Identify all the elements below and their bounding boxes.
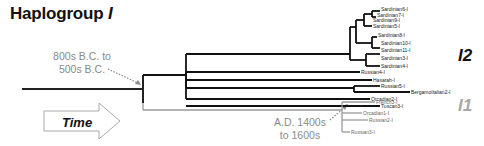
leaf-label: French3-I bbox=[376, 99, 397, 105]
leaf-label: Russian5-I bbox=[381, 83, 405, 89]
leaf-label: BergamoItalian2-I bbox=[411, 89, 450, 95]
leaf-label: Sardinian5-I bbox=[373, 23, 400, 29]
leaf-label: Sardinian10-I bbox=[381, 40, 411, 46]
leaf-label: Russian4-I bbox=[361, 69, 385, 75]
leaf-label: Russian3-I bbox=[351, 129, 375, 135]
tree-root bbox=[22, 75, 143, 103]
i2-branches bbox=[143, 11, 410, 106]
leaf-label: Sardinian8-I bbox=[378, 32, 405, 38]
time-arrow-label: Time bbox=[62, 115, 92, 130]
leaf-label: Sardinian4-I bbox=[381, 63, 408, 69]
leaf-label: Russian2-I bbox=[369, 117, 393, 123]
leaf-label: Orcadian1-I bbox=[363, 110, 389, 116]
leaf-label: Sardinian3-I bbox=[381, 55, 408, 61]
leaf-label: Sardinian11-I bbox=[381, 47, 410, 53]
early-date-arrow bbox=[108, 69, 141, 85]
